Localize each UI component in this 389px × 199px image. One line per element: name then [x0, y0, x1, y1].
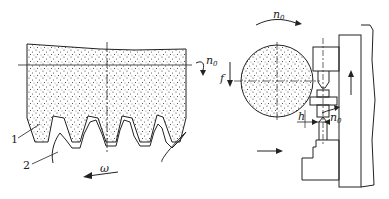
- upper-center-housing: [313, 47, 339, 71]
- label-part-1: 1: [11, 133, 18, 146]
- column-up-arrowhead: [348, 70, 354, 77]
- n0-arrowhead: [200, 70, 206, 76]
- table-feed-arrowhead: [276, 148, 283, 154]
- label-n0-work: n0: [330, 111, 342, 125]
- feed-arrowhead: [227, 80, 233, 87]
- grinding-diagram: 1 2 ω n0 n0 f h n0: [0, 0, 389, 199]
- leader-2: [32, 152, 58, 164]
- machine-column: [339, 35, 361, 187]
- label-n0-left: n0: [206, 54, 218, 68]
- wheel-rotation-arrowhead: [295, 20, 302, 26]
- formed-grinding-wheel: [27, 44, 186, 142]
- label-n0-top: n0: [273, 8, 285, 22]
- machine-back: [361, 25, 375, 187]
- label-omega: ω: [100, 162, 109, 175]
- tailstock-base: [302, 140, 339, 180]
- upper-center: [318, 71, 329, 88]
- h-arrow-right: [312, 119, 318, 125]
- label-f: f: [219, 72, 226, 85]
- label-h: h: [298, 110, 305, 123]
- workpiece-gear: [310, 97, 337, 105]
- omega-arrowhead: [83, 172, 92, 179]
- n0-rotation-arrow: [196, 62, 204, 70]
- label-part-2: 2: [23, 159, 30, 172]
